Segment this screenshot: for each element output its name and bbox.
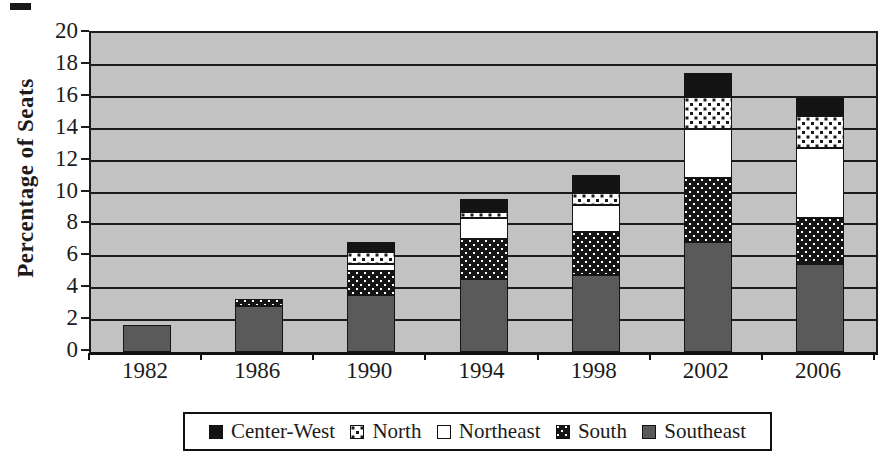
y-tick-label-20: 20 [32, 19, 78, 42]
plot-area [89, 31, 878, 355]
y-tick-mark-6 [81, 253, 89, 255]
stacked-bar-1990 [347, 242, 395, 352]
gridline-y-16 [91, 96, 876, 98]
bar-segment-1990-southeast [347, 295, 395, 352]
y-tick-mark-16 [81, 94, 89, 96]
bar-segment-1986-southeast [235, 306, 283, 352]
legend-label-south: South [578, 421, 627, 442]
bar-segment-2006-center-west [796, 98, 844, 116]
bar-segment-1982-southeast [123, 325, 171, 352]
y-tick-label-14: 14 [32, 115, 78, 138]
bar-segment-1998-center-west [572, 175, 620, 193]
stacked-bar-1982 [123, 325, 171, 352]
y-tick-mark-4 [81, 285, 89, 287]
legend-swatch-north-icon [350, 425, 364, 439]
bar-segment-2002-north [684, 97, 732, 129]
chart-figure: Percentage of Seats 02468101214161820 19… [0, 0, 889, 467]
y-tick-label-6: 6 [32, 242, 78, 265]
bar-segment-1998-north [572, 193, 620, 206]
y-tick-label-16: 16 [32, 83, 78, 106]
stacked-bar-2002 [684, 73, 732, 352]
y-tick-label-10: 10 [32, 179, 78, 202]
stacked-bar-1998 [572, 175, 620, 352]
bar-segment-1994-center-west [460, 199, 508, 212]
y-tick-label-2: 2 [32, 306, 78, 329]
bar-segment-1990-north [347, 252, 395, 264]
legend: Center-WestNorthNortheastSouthSoutheast [183, 412, 772, 451]
scan-ink-mark [10, 3, 31, 10]
bar-segment-2002-south [684, 178, 732, 242]
gridline-y-12 [91, 160, 876, 162]
bar-segment-2006-southeast [796, 264, 844, 352]
y-tick-mark-14 [81, 126, 89, 128]
bar-segment-2002-northeast [684, 129, 732, 178]
legend-item-southeast: Southeast [642, 421, 746, 442]
legend-swatch-northeast-icon [437, 425, 451, 439]
bar-segment-1990-south [347, 271, 395, 295]
bar-segment-1990-northeast [347, 264, 395, 271]
x-axis-label-1986: 1986 [201, 358, 313, 384]
legend-item-center-west: Center-West [209, 421, 335, 442]
bar-segment-2002-southeast [684, 242, 732, 352]
legend-item-north: North [350, 421, 421, 442]
gridline-y-10 [91, 192, 876, 194]
x-axis-label-1994: 1994 [425, 358, 537, 384]
stacked-bar-2006 [796, 98, 844, 352]
y-tick-label-18: 18 [32, 51, 78, 74]
y-tick-mark-10 [81, 190, 89, 192]
legend-label-center-west: Center-West [231, 421, 335, 442]
bar-segment-1994-south [460, 239, 508, 279]
y-tick-mark-18 [81, 62, 89, 64]
legend-label-southeast: Southeast [664, 421, 746, 442]
legend-item-northeast: Northeast [437, 421, 541, 442]
bar-segment-1998-southeast [572, 275, 620, 352]
bar-segment-2006-south [796, 218, 844, 264]
y-tick-label-8: 8 [32, 210, 78, 233]
x-axis-label-2006: 2006 [762, 358, 874, 384]
bar-segment-1998-south [572, 232, 620, 275]
legend-swatch-south-icon [556, 425, 570, 439]
y-tick-mark-2 [81, 317, 89, 319]
y-tick-mark-8 [81, 221, 89, 223]
gridline-y-14 [91, 128, 876, 130]
bar-segment-1998-northeast [572, 205, 620, 232]
bar-segment-2006-north [796, 116, 844, 148]
bar-segment-1994-southeast [460, 279, 508, 352]
legend-label-north: North [372, 421, 421, 442]
x-axis-label-2002: 2002 [650, 358, 762, 384]
stacked-bar-1986 [235, 299, 283, 352]
y-tick-mark-0 [81, 349, 89, 351]
bar-segment-1990-center-west [347, 242, 395, 252]
legend-item-south: South [556, 421, 627, 442]
bar-segment-2002-center-west [684, 73, 732, 97]
y-tick-mark-12 [81, 158, 89, 160]
x-axis-label-1982: 1982 [89, 358, 201, 384]
bar-segment-2006-northeast [796, 148, 844, 218]
y-tick-label-4: 4 [32, 274, 78, 297]
x-axis-label-1998: 1998 [538, 358, 650, 384]
y-tick-mark-20 [81, 30, 89, 32]
legend-label-northeast: Northeast [459, 421, 541, 442]
legend-swatch-southeast-icon [642, 425, 656, 439]
y-tick-label-0: 0 [32, 338, 78, 361]
x-axis-label-1990: 1990 [313, 358, 425, 384]
bar-segment-1994-northeast [460, 218, 508, 239]
stacked-bar-1994 [460, 199, 508, 352]
y-tick-label-12: 12 [32, 147, 78, 170]
gridline-y-18 [91, 64, 876, 66]
legend-swatch-center-west-icon [209, 425, 223, 439]
